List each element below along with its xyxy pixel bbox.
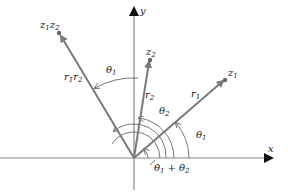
- theta1-arc: [176, 123, 189, 158]
- label-theta2: θ2: [159, 105, 170, 118]
- theta-sum-arc: [144, 149, 148, 158]
- label-theta-sum: θ1+θ2: [154, 162, 190, 175]
- label-theta1-top: θ1: [106, 64, 117, 77]
- theta1-top-arc: [95, 78, 138, 88]
- y-axis-label: y: [139, 5, 146, 16]
- label-r1r2: r1r2: [64, 71, 83, 84]
- point-z1: [223, 78, 227, 82]
- label-z1z2: z1z2: [39, 19, 60, 32]
- label-z1: z1: [227, 67, 238, 80]
- complex-plane-diagram: x y z1 z2 z1z2 r1 r2 r1r2 θ1 θ2 θ1 θ1+θ2: [0, 0, 290, 193]
- label-r1: r1: [191, 88, 200, 101]
- label-z2: z2: [145, 46, 156, 59]
- label-theta1: θ1: [196, 129, 207, 142]
- label-r2: r2: [145, 89, 155, 102]
- vector-z2: [134, 58, 152, 158]
- vector-z1z2: [57, 31, 134, 158]
- x-axis-label: x: [268, 143, 274, 154]
